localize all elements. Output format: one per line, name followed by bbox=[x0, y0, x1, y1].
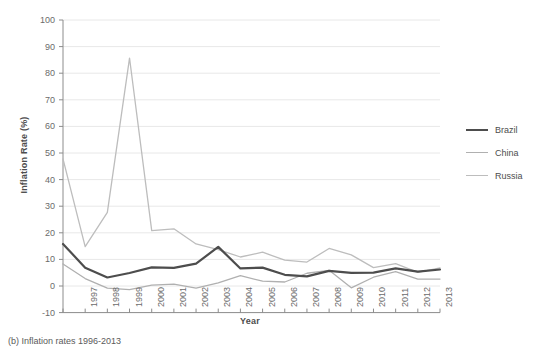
legend-item-brazil: Brazil bbox=[466, 118, 548, 141]
x-tick-label: 2003 bbox=[222, 287, 232, 307]
y-tick-label: -10 bbox=[21, 308, 55, 318]
y-tick-label: 60 bbox=[21, 121, 55, 131]
figure-caption: (b) Inflation rates 1996-2013 bbox=[8, 336, 121, 346]
legend-item-china: China bbox=[466, 141, 548, 164]
x-tick-label: 2000 bbox=[156, 287, 166, 307]
y-tick-label: 30 bbox=[21, 201, 55, 211]
x-axis-title: Year bbox=[60, 316, 440, 326]
x-tick-label: 2001 bbox=[178, 287, 188, 307]
series-line-brazil bbox=[63, 244, 440, 278]
y-tick-label: 10 bbox=[21, 254, 55, 264]
legend-label-china: China bbox=[495, 148, 519, 158]
legend-swatch-china bbox=[466, 152, 488, 153]
y-tick-label: 0 bbox=[21, 281, 55, 291]
y-tick-label: 50 bbox=[21, 148, 55, 158]
x-tick-label: 2006 bbox=[289, 287, 299, 307]
chart-legend: Brazil China Russia bbox=[466, 118, 548, 187]
legend-label-brazil: Brazil bbox=[495, 125, 518, 135]
y-tick-label: 40 bbox=[21, 175, 55, 185]
x-tick-label: 2002 bbox=[200, 287, 210, 307]
x-tick-label: 2013 bbox=[444, 287, 454, 307]
series-line-russia bbox=[63, 58, 440, 272]
x-tick-label: 2008 bbox=[333, 287, 343, 307]
x-tick-label: 1998 bbox=[111, 287, 121, 307]
legend-swatch-russia bbox=[466, 175, 488, 176]
line-chart-svg bbox=[0, 0, 460, 330]
legend-label-russia: Russia bbox=[495, 171, 523, 181]
x-tick-label: 2007 bbox=[311, 287, 321, 307]
legend-swatch-brazil bbox=[466, 129, 488, 131]
x-tick-label: 2004 bbox=[244, 287, 254, 307]
x-tick-label: 2010 bbox=[377, 287, 387, 307]
y-tick-label: 80 bbox=[21, 68, 55, 78]
x-tick-label: 2005 bbox=[267, 287, 277, 307]
x-tick-label: 2009 bbox=[355, 287, 365, 307]
figure-container: Inflation Rate (%) Year -100102030405060… bbox=[0, 0, 548, 356]
chart-plot-area: Inflation Rate (%) Year -100102030405060… bbox=[0, 0, 460, 330]
y-tick-label: 70 bbox=[21, 95, 55, 105]
x-tick-label: 2011 bbox=[400, 287, 410, 306]
x-tick-label: 1999 bbox=[134, 287, 144, 307]
y-tick-label: 90 bbox=[21, 42, 55, 52]
legend-item-russia: Russia bbox=[466, 164, 548, 187]
y-tick-label: 100 bbox=[21, 15, 55, 25]
x-tick-label: 1997 bbox=[89, 287, 99, 307]
y-tick-label: 20 bbox=[21, 228, 55, 238]
x-tick-label: 2012 bbox=[422, 287, 432, 307]
